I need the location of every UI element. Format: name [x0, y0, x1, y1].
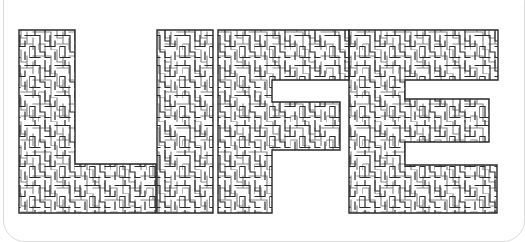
maze-graphic: [0, 0, 515, 227]
